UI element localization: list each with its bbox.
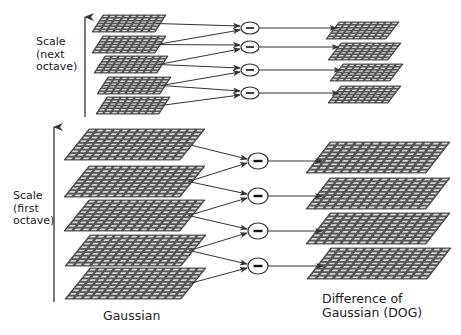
scale-next-octave-label: Scale (next octave) bbox=[36, 36, 77, 74]
octave-next bbox=[85, 15, 403, 117]
grid-plane bbox=[328, 86, 401, 103]
input-arrow bbox=[162, 86, 241, 92]
dog-caption-line1: Difference of bbox=[322, 292, 422, 306]
input-arrow bbox=[161, 95, 241, 106]
grid-plane bbox=[92, 36, 166, 53]
grid-plane bbox=[64, 200, 205, 231]
grid-plane bbox=[330, 64, 403, 81]
input-arrow bbox=[159, 49, 241, 65]
dog-caption: Difference of Gaussian (DOG) bbox=[322, 292, 422, 321]
input-arrow bbox=[190, 251, 248, 265]
grid-plane bbox=[306, 213, 450, 244]
label-line: octave) bbox=[36, 61, 77, 74]
scale-first-octave-label: Scale (first octave) bbox=[13, 190, 54, 228]
input-arrow bbox=[157, 45, 241, 46]
grid-plane bbox=[307, 248, 451, 279]
octave-first bbox=[54, 127, 451, 302]
input-arrow bbox=[189, 216, 248, 230]
label-line: Scale bbox=[13, 190, 54, 203]
dog-pyramid-diagram: Scale (next octave) Scale (first octave)… bbox=[0, 0, 461, 335]
grid-plane bbox=[65, 235, 206, 266]
grid-plane bbox=[65, 268, 206, 299]
dog-caption-line2: Gaussian (DOG) bbox=[322, 306, 422, 320]
input-arrow bbox=[189, 145, 248, 160]
input-arrow bbox=[157, 30, 241, 45]
grid-plane bbox=[92, 15, 166, 32]
label-line: octave) bbox=[13, 215, 54, 228]
grid-plane bbox=[306, 178, 450, 209]
label-line: Scale bbox=[36, 36, 77, 49]
grid-plane bbox=[64, 129, 205, 160]
gaussian-caption: Gaussian bbox=[103, 309, 160, 323]
grid-plane bbox=[326, 22, 399, 39]
input-arrow bbox=[157, 24, 241, 27]
grid-plane bbox=[97, 77, 171, 94]
grid-plane bbox=[94, 56, 168, 73]
grid-plane bbox=[96, 97, 170, 114]
input-arrow bbox=[189, 182, 248, 195]
input-arrow bbox=[159, 65, 241, 69]
input-arrow bbox=[162, 72, 241, 86]
grid-plane bbox=[64, 166, 205, 197]
grid-plane bbox=[306, 142, 450, 173]
grid-plane bbox=[328, 43, 401, 60]
